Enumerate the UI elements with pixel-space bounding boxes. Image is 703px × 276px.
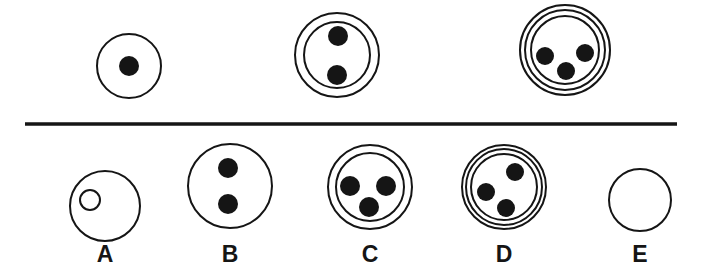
- option-label-e: E: [632, 241, 647, 267]
- option-b: B: [188, 144, 272, 267]
- filled-dot: [340, 176, 360, 196]
- membrane-ring: [520, 5, 610, 95]
- top-figure-3: [520, 5, 610, 95]
- filled-dot: [359, 197, 379, 217]
- option-c: C: [328, 145, 412, 267]
- filled-dot: [328, 26, 348, 46]
- option-a: A: [70, 171, 140, 267]
- option-label-c: C: [362, 241, 379, 267]
- option-label-b: B: [222, 241, 239, 267]
- filled-dot: [218, 194, 238, 214]
- filled-dot: [536, 47, 554, 65]
- top-figure-1: [97, 34, 161, 98]
- option-e: E: [609, 169, 671, 267]
- filled-dot: [576, 44, 594, 62]
- filled-dot: [119, 56, 139, 76]
- membrane-ring: [188, 144, 272, 228]
- membrane-ring: [609, 169, 671, 231]
- filled-dot: [477, 183, 495, 201]
- filled-dot: [497, 199, 515, 217]
- filled-dot: [327, 65, 347, 85]
- filled-dot: [376, 176, 396, 196]
- cell-rings-dots-diagram: ABCDE: [0, 0, 703, 276]
- open-dot: [80, 190, 100, 210]
- option-label-a: A: [97, 241, 114, 267]
- option-d: D: [462, 145, 546, 267]
- filled-dot: [506, 163, 524, 181]
- filled-dot: [557, 62, 575, 80]
- membrane-ring: [70, 171, 140, 241]
- top-figure-2: [295, 13, 379, 97]
- option-label-d: D: [496, 241, 513, 267]
- diagram-page: ABCDE: [0, 0, 703, 276]
- filled-dot: [218, 158, 238, 178]
